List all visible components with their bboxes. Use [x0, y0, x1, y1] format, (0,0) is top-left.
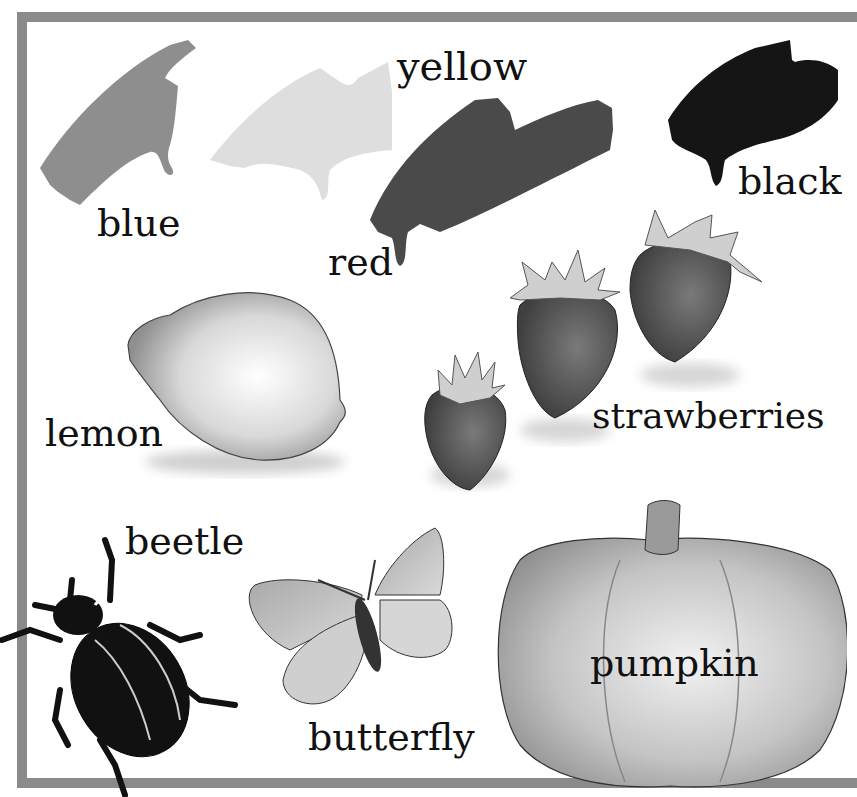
butterfly-illustration — [249, 528, 452, 704]
label-butterfly: butterfly — [308, 718, 475, 756]
strawberries-illustration — [425, 210, 762, 490]
label-red: red — [328, 243, 393, 281]
label-black: black — [738, 162, 841, 200]
label-blue: blue — [97, 204, 180, 242]
label-yellow: yellow — [397, 46, 527, 86]
label-strawberries: strawberries — [592, 398, 825, 434]
red-paint-swatch — [370, 98, 613, 266]
label-lemon: lemon — [45, 414, 163, 452]
beetle-illustration — [2, 540, 235, 795]
strawberry-large — [630, 210, 762, 387]
label-beetle: beetle — [125, 522, 244, 560]
yellow-paint-swatch — [210, 62, 392, 200]
label-pumpkin: pumpkin — [590, 644, 759, 682]
strawberry-small — [425, 352, 510, 490]
blue-paint-swatch — [40, 40, 196, 205]
